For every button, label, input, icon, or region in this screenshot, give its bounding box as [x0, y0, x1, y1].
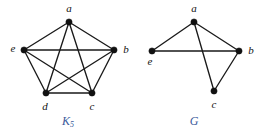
graph-caption-subscript-k5: 5 — [70, 120, 74, 129]
graph-k5-edges — [24, 22, 114, 93]
graph-k5: abcdeK5 — [11, 2, 130, 129]
graph-vertex-e — [149, 48, 155, 54]
graph-vertex-c — [89, 90, 95, 96]
graph-figure-canvas: abcdeK5abceG — [0, 0, 267, 135]
graph-vertex-label-c: c — [90, 100, 95, 112]
graph-vertex-b — [111, 47, 117, 53]
graph-edge — [214, 51, 239, 91]
graph-vertex-d — [43, 90, 49, 96]
graph-caption-g: G — [190, 114, 199, 128]
graph-edge — [152, 22, 194, 51]
graph-vertex-a — [66, 19, 72, 25]
graph-vertex-label-e: e — [11, 42, 16, 54]
graph-caption-main-g: G — [190, 114, 199, 128]
graph-edge — [69, 22, 114, 50]
graph-vertex-label-d: d — [42, 100, 48, 112]
graph-figure: abcdeK5abceG — [0, 0, 267, 135]
graph-edge — [24, 22, 69, 50]
graph-vertex-b — [236, 48, 242, 54]
graph-vertex-label-a: a — [66, 2, 72, 14]
graph-g-edges — [152, 22, 239, 91]
graph-vertex-label-c: c — [212, 98, 217, 110]
graph-vertex-e — [21, 47, 27, 53]
graph-vertex-a — [191, 19, 197, 25]
graph-vertex-label-a: a — [191, 2, 197, 14]
graph-caption-k5: K5 — [61, 114, 74, 129]
graph-g: abceG — [148, 2, 255, 128]
graph-vertex-c — [211, 88, 217, 94]
graph-edge — [69, 22, 92, 93]
graph-vertex-label-e: e — [148, 55, 153, 67]
graph-vertex-label-b: b — [123, 43, 129, 55]
graph-vertex-label-b: b — [248, 44, 254, 56]
graph-edge — [46, 22, 69, 93]
